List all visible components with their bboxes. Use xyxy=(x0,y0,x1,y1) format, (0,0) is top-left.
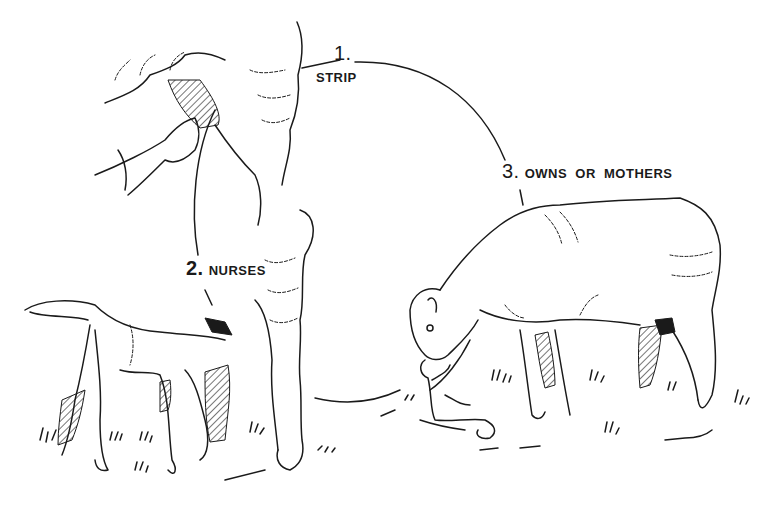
step-1-text-wrap: STRIP xyxy=(316,68,357,86)
step-2-text: NURSES xyxy=(209,263,266,278)
step-2-illustration xyxy=(25,210,335,480)
step-3-label: 3. OWNS OR MOTHERS xyxy=(502,160,673,183)
step-2-label: 2. NURSES xyxy=(186,257,266,280)
step-3-text: OWNS OR MOTHERS xyxy=(525,166,673,181)
step-3-number: 3. xyxy=(502,160,520,182)
step-2-number: 2. xyxy=(186,257,204,279)
diagram-canvas: 1. STRIP 2. NURSES 3. OWNS OR MOTHERS xyxy=(0,0,780,505)
step-3-illustration xyxy=(381,198,749,450)
cycle-arc xyxy=(194,60,523,402)
step-1-illustration xyxy=(95,22,302,225)
step-1-label: 1. xyxy=(334,42,352,65)
ewe-lamb-illustration xyxy=(0,0,780,505)
step-1-text: STRIP xyxy=(316,70,357,85)
step-1-number: 1. xyxy=(334,42,352,64)
